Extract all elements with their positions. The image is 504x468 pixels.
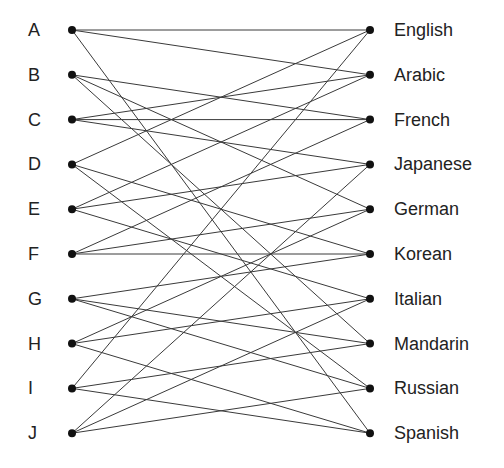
left-node-label: G — [28, 289, 42, 309]
right-node-dot — [366, 429, 374, 437]
edge-j-italian — [72, 299, 370, 433]
left-node-label: H — [28, 334, 41, 354]
left-node-dot — [68, 116, 76, 124]
right-node-dot — [366, 116, 374, 124]
right-node-dot — [366, 205, 374, 213]
left-node-dot — [68, 429, 76, 437]
left-node-dot — [68, 295, 76, 303]
edge-d-english — [72, 30, 370, 164]
edge-f-french — [72, 120, 370, 254]
right-node-dot — [366, 340, 374, 348]
right-node-label: Russian — [394, 378, 459, 398]
right-node-label: Japanese — [394, 154, 472, 174]
right-node-column: EnglishArabicFrenchJapaneseGermanKoreanI… — [366, 20, 472, 443]
bipartite-diagram: ABCDEFGHIJ EnglishArabicFrenchJapaneseGe… — [0, 0, 504, 468]
left-node-label: I — [28, 378, 33, 398]
left-node-dot — [68, 205, 76, 213]
left-node-dot — [68, 26, 76, 34]
edge-layer — [72, 30, 370, 433]
edge-a-arabic — [72, 30, 370, 75]
right-node-dot — [366, 384, 374, 392]
right-node-dot — [366, 160, 374, 168]
right-node-label: Mandarin — [394, 334, 469, 354]
left-node-dot — [68, 384, 76, 392]
right-node-label: Italian — [394, 289, 442, 309]
edge-i-english — [72, 30, 370, 388]
right-node-label: English — [394, 20, 453, 40]
right-node-dot — [366, 71, 374, 79]
right-node-dot — [366, 295, 374, 303]
left-node-label: J — [28, 423, 37, 443]
left-node-label: C — [28, 110, 41, 130]
edge-g-russian — [72, 299, 370, 389]
right-node-label: German — [394, 199, 459, 219]
left-node-label: E — [28, 199, 40, 219]
edge-f-german — [72, 209, 370, 254]
left-node-column: ABCDEFGHIJ — [28, 20, 76, 443]
left-node-dot — [68, 160, 76, 168]
left-node-label: F — [28, 244, 39, 264]
edge-h-german — [72, 209, 370, 343]
left-node-label: B — [28, 65, 40, 85]
left-node-dot — [68, 340, 76, 348]
left-node-label: D — [28, 154, 41, 174]
edge-j-japanese — [72, 164, 370, 433]
right-node-dot — [366, 26, 374, 34]
right-node-label: Spanish — [394, 423, 459, 443]
right-node-label: Arabic — [394, 65, 445, 85]
edge-h-spanish — [72, 344, 370, 434]
right-node-label: Korean — [394, 244, 452, 264]
left-node-label: A — [28, 20, 40, 40]
right-node-label: French — [394, 110, 450, 130]
left-node-dot — [68, 71, 76, 79]
left-node-dot — [68, 250, 76, 258]
right-node-dot — [366, 250, 374, 258]
